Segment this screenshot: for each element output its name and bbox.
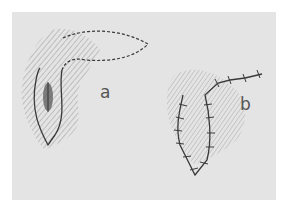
label-b: b [240,94,251,114]
figure-b [167,70,262,175]
figure-a [22,29,148,150]
label-a: a [100,82,110,102]
